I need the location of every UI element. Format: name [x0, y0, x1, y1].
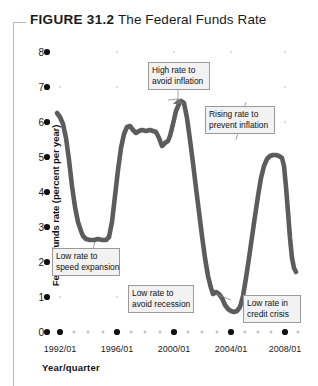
annotation-rising-rate-line1: Rising rate to	[209, 109, 271, 120]
annotation-low-rate-expansion: Low rate to speed expansion	[52, 248, 120, 276]
annotation-high-rate-line2: avoid inflation	[152, 76, 206, 87]
figure-container: FIGURE 31.2 The Federal Funds Rate Feder…	[0, 0, 318, 386]
annotation-high-rate-line1: High rate to	[152, 65, 206, 76]
annotation-low-rate-recession-line1: Low rate to	[132, 288, 190, 299]
annotation-rising-rate-line2: prevent inflation	[209, 120, 271, 131]
annotation-low-rate-expansion-line2: speed expansion	[56, 262, 116, 273]
annotation-low-rate-credit-line1: Low rate in	[247, 298, 297, 309]
annotation-low-rate-recession: Low rate to avoid recession	[128, 285, 194, 313]
chart-plot-area	[0, 0, 318, 386]
annotation-low-rate-credit-line2: credit crisis	[247, 309, 297, 320]
x-axis-marker-dots	[57, 329, 288, 335]
annotation-low-rate-credit: Low rate in credit crisis	[243, 295, 301, 323]
annotation-low-rate-recession-line2: avoid recession	[132, 299, 190, 310]
y-axis-marker-dots	[44, 49, 50, 335]
annotation-rising-rate: Rising rate to prevent inflation	[205, 106, 275, 134]
x-axis-minor-dots	[73, 331, 300, 334]
annotation-high-rate: High rate to avoid inflation	[148, 62, 210, 90]
annotation-low-rate-expansion-line1: Low rate to	[56, 251, 116, 262]
